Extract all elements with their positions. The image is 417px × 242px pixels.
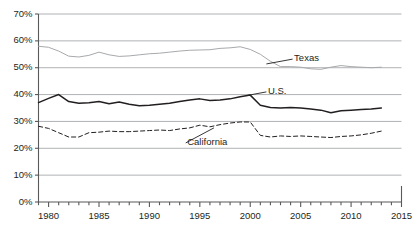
y-axis-label: 20% — [13, 142, 32, 153]
y-axis-label: 30% — [13, 115, 32, 126]
series-line-us — [39, 95, 382, 113]
x-axis-label: 1985 — [85, 210, 113, 221]
series-annotation-texas: Texas — [294, 52, 319, 63]
x-axis-label: 1995 — [186, 210, 214, 221]
y-axis-label: 50% — [13, 61, 32, 72]
y-axis-label: 60% — [13, 34, 32, 45]
chart-container: TexasU.S.California0%10%20%30%40%50%60%7… — [0, 0, 417, 242]
x-axis-label: 2015 — [388, 210, 416, 221]
x-axis-label: 1980 — [35, 210, 63, 221]
x-axis-label: 2005 — [287, 210, 315, 221]
y-axis-label: 0% — [19, 196, 33, 207]
y-axis-label: 70% — [13, 8, 32, 19]
series-annotation-us: U.S. — [268, 85, 286, 96]
x-axis-label: 2010 — [337, 210, 365, 221]
series-annotation-california: California — [187, 136, 227, 147]
chart-plot-area — [0, 0, 417, 242]
y-axis-label: 10% — [13, 169, 32, 180]
series-line-texas — [39, 46, 382, 69]
x-axis-label: 1990 — [135, 210, 163, 221]
annotation-leader-us — [246, 92, 266, 96]
y-axis-label: 40% — [13, 88, 32, 99]
x-axis-label: 2000 — [236, 210, 264, 221]
